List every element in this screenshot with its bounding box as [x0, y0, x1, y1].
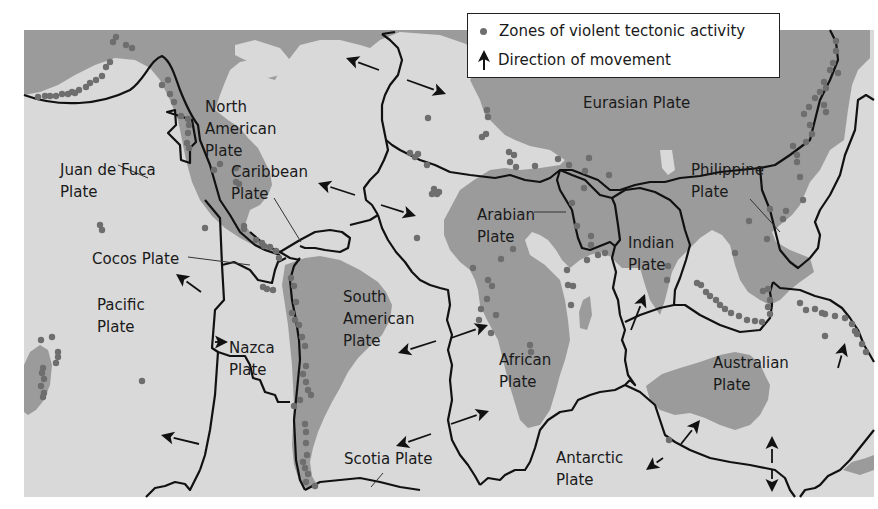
activity-dot-icon [827, 67, 833, 73]
activity-dot-icon [308, 392, 314, 398]
activity-dot-icon [412, 154, 418, 160]
activity-dot-icon [759, 319, 765, 325]
activity-dot-icon [767, 206, 773, 212]
activity-dot-icon [833, 38, 839, 44]
activity-dot-icon [299, 334, 305, 340]
activity-dot-icon [300, 371, 306, 377]
activity-dot-icon [202, 225, 208, 231]
activity-dot-icon [588, 233, 594, 239]
activity-dot-icon [484, 107, 490, 113]
activity-dot-icon [566, 162, 572, 168]
activity-dot-icon [289, 310, 295, 316]
activity-dot-icon [800, 197, 806, 203]
activity-dot-icon [488, 330, 494, 336]
activity-dot-icon [498, 256, 504, 262]
activity-dot-icon [863, 349, 869, 355]
activity-dot-icon [304, 452, 310, 458]
activity-dot-icon [812, 306, 818, 312]
activity-dot-icon [291, 283, 297, 289]
activity-dot-icon [42, 93, 48, 99]
activity-dot-icon [40, 394, 46, 400]
activity-dot-icon [728, 310, 734, 316]
activity-dot-icon [564, 267, 570, 273]
activity-dot-icon [794, 159, 800, 165]
activity-dot-icon [606, 172, 612, 178]
activity-dot-icon [103, 64, 109, 70]
plate-label-eurasian: Eurasian Plate [583, 94, 690, 112]
activity-dot-icon [139, 378, 145, 384]
activity-dot-icon [806, 104, 812, 110]
activity-dot-icon [707, 293, 713, 299]
activity-dot-icon [267, 244, 273, 250]
activity-dot-icon [698, 282, 704, 288]
activity-dot-icon [849, 321, 855, 327]
activity-dot-icon [303, 379, 309, 385]
activity-dot-icon [507, 159, 513, 165]
activity-dot-icon [478, 306, 484, 312]
activity-dot-icon [835, 70, 841, 76]
activity-dot-icon [565, 282, 571, 288]
activity-dot-icon [273, 248, 279, 254]
activity-dot-icon [489, 283, 495, 289]
activity-dot-icon [407, 150, 413, 156]
activity-dot-icon [586, 155, 592, 161]
activity-dot-icon [764, 236, 770, 242]
activity-dot-icon [664, 277, 670, 283]
activity-dot-icon [297, 397, 303, 403]
activity-dot-icon [722, 306, 728, 312]
activity-dot-icon [797, 300, 803, 306]
activity-dot-icon [185, 130, 191, 136]
activity-dot-icon [817, 89, 823, 95]
activity-dot-icon [833, 48, 839, 54]
activity-dot-icon [303, 440, 309, 446]
activity-dot-icon [436, 189, 442, 195]
activity-dot-icon [292, 317, 298, 323]
activity-dot-icon [812, 95, 818, 101]
activity-dot-icon [595, 252, 601, 258]
activity-dot-icon [484, 296, 490, 302]
up-arrow-icon [476, 49, 492, 71]
activity-dot-icon [93, 77, 99, 83]
activity-dot-icon [584, 257, 590, 263]
activity-dot-icon [746, 218, 752, 224]
activity-dot-icon [717, 302, 723, 308]
activity-dot-icon [107, 59, 113, 65]
activity-dot-icon [767, 311, 773, 317]
activity-dot-icon [666, 437, 672, 443]
activity-dot-icon [797, 174, 803, 180]
activity-dot-icon [300, 459, 306, 465]
activity-dot-icon [53, 360, 59, 366]
activity-dot-icon [790, 143, 796, 149]
activity-dot-icon [765, 304, 771, 310]
activity-dot-icon [302, 465, 308, 471]
activity-dot-icon [783, 208, 789, 214]
activity-dot-icon [582, 168, 588, 174]
activity-dot-icon [59, 91, 65, 97]
activity-dot-icon [476, 317, 482, 323]
activity-dot-icon [35, 94, 41, 100]
activity-dot-icon [581, 185, 587, 191]
activity-dot-icon [159, 82, 165, 88]
plate-label-scotia: Scotia Plate [344, 450, 432, 468]
activity-dot-icon [302, 343, 308, 349]
activity-dot-icon [807, 122, 813, 128]
activity-dot-icon [822, 311, 828, 317]
activity-dot-icon [425, 115, 431, 121]
legend-dot-label: Zones of violent tectonic activity [499, 22, 745, 40]
activity-dot-icon [602, 250, 608, 256]
activity-dot-icon [303, 479, 309, 485]
activity-dot-icon [485, 114, 491, 120]
activity-dot-icon [293, 299, 299, 305]
activity-dot-icon [852, 328, 858, 334]
activity-dot-icon [270, 287, 276, 293]
activity-dot-icon [821, 79, 827, 85]
activity-dot-icon [186, 145, 192, 151]
activity-dot-icon [752, 318, 758, 324]
activity-dot-icon [665, 263, 671, 269]
activity-dot-icon [821, 102, 827, 108]
activity-dot-icon [110, 39, 116, 45]
activity-dot-icon [217, 161, 223, 167]
activity-dot-icon [303, 429, 309, 435]
activity-dot-icon [167, 91, 173, 97]
legend-item-activity-zones: Zones of violent tectonic activity [476, 18, 745, 44]
